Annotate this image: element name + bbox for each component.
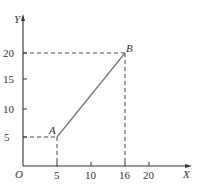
segment-ab bbox=[57, 53, 125, 137]
y-tick-label-5: 5 bbox=[4, 131, 10, 143]
x-tick-label-5: 5 bbox=[54, 169, 60, 181]
y-tick-label-15: 15 bbox=[3, 73, 15, 85]
y-axis-label: Y bbox=[14, 13, 22, 25]
x-tick-label-16: 16 bbox=[119, 169, 131, 181]
point-a-label: A bbox=[48, 124, 56, 136]
y-tick-label-10: 10 bbox=[3, 103, 15, 115]
x-tick-label-20: 20 bbox=[143, 169, 155, 181]
origin-label: O bbox=[15, 168, 23, 180]
y-tick-label-20: 20 bbox=[3, 47, 15, 59]
point-b-label: B bbox=[126, 42, 133, 54]
x-tick-label-10: 10 bbox=[85, 169, 97, 181]
y-axis-arrow-icon bbox=[21, 14, 25, 21]
coordinate-diagram: Y X O 5 10 15 20 5 10 16 20 A B bbox=[0, 0, 203, 191]
x-axis-label: X bbox=[182, 168, 191, 180]
